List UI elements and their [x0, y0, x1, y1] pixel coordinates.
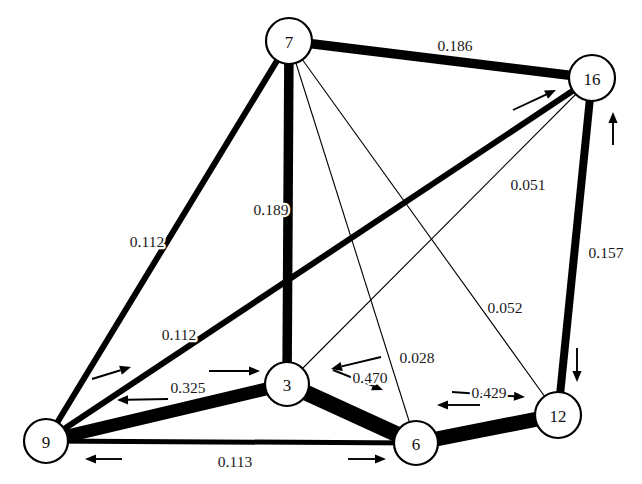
arrow-9-to-16: [92, 366, 131, 379]
edge-label-7-9: 0.112: [130, 233, 164, 250]
network-graph-figure: 71693612 0.1860.1860.1120.1120.1890.1890…: [0, 0, 642, 484]
arrow-16-to-12: [572, 348, 581, 382]
edge-9-6: [46, 441, 416, 443]
arrow-6-to-3-shaft: [342, 357, 381, 366]
node-16[interactable]: 16: [569, 55, 615, 101]
arrow-9-left-head: [85, 454, 96, 463]
node-label-3: 3: [283, 376, 292, 395]
arrow-16-to-12-head: [572, 371, 581, 382]
node-label-9: 9: [42, 433, 51, 452]
node-label-6: 6: [412, 435, 421, 454]
edge-16-9: [46, 78, 592, 441]
edge-label-16-9: 0.112: [162, 326, 196, 343]
edge-label-7-3: 0.189: [254, 201, 289, 218]
edge-label-6-12: 0.429: [472, 384, 507, 401]
arrow-12-to-16-head: [608, 112, 617, 123]
arrow-9-to-3-head: [249, 366, 260, 375]
arrow-9-left: [85, 454, 122, 463]
edge-16-12: [558, 78, 592, 415]
edge-label-7-6: 0.028: [400, 349, 435, 366]
arrow-3-to-9-shaft: [128, 399, 168, 400]
node-label-12: 12: [550, 407, 567, 426]
edge-7-9: [46, 41, 289, 441]
edge-9-3: [46, 384, 287, 441]
edges-layer: [46, 41, 592, 443]
edge-label-7-12: 0.052: [488, 299, 523, 316]
arrow-6-right: [348, 454, 386, 463]
edge-label-7-16: 0.186: [438, 37, 473, 54]
node-label-16: 16: [584, 70, 601, 89]
edge-16-3: [287, 78, 592, 384]
node-label-7: 7: [285, 33, 294, 52]
arrow-to-16-shaft: [513, 95, 546, 110]
arrow-6-to-12-head: [514, 392, 525, 401]
arrow-9-to-16-shaft: [92, 370, 120, 379]
edge-label-16-12: 0.157: [589, 244, 624, 261]
graph-canvas: 71693612 0.1860.1860.1120.1120.1890.1890…: [0, 0, 642, 484]
node-12[interactable]: 12: [535, 392, 581, 438]
arrow-9-to-3: [209, 366, 260, 375]
arrow-12-to-6: [437, 400, 480, 409]
node-3[interactable]: 3: [265, 362, 309, 406]
edge-label-3-6: 0.470: [353, 369, 388, 386]
arrow-12-to-16: [608, 112, 617, 145]
arrow-6-to-3-head: [331, 362, 343, 371]
node-7[interactable]: 7: [266, 18, 312, 64]
arrow-3-to-9: [117, 395, 168, 404]
arrow-3-to-9-head: [117, 395, 128, 404]
arrow-6-right-head: [375, 454, 386, 463]
node-9[interactable]: 9: [24, 419, 68, 463]
edge-label-16-3: 0.051: [511, 176, 546, 193]
arrow-12-to-6-head: [437, 400, 448, 409]
arrow-9-to-16-head: [119, 366, 131, 375]
node-6[interactable]: 6: [394, 421, 438, 465]
edge-label-9-3: 0.325: [171, 379, 206, 396]
edge-label-9-6: 0.113: [218, 453, 253, 470]
